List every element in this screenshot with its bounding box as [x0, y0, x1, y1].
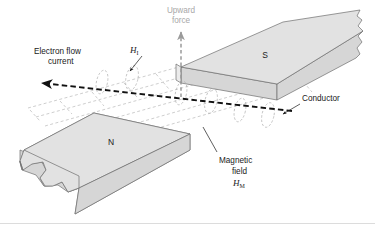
magnetic-force-diagram: N S — [0, 0, 375, 232]
conductor-leader — [283, 104, 300, 114]
current-field-symbol: HI — [129, 45, 139, 56]
magnetic-field-label-line2: field — [232, 167, 247, 176]
electron-flow-label-line2: current — [48, 57, 74, 66]
south-pole-label: S — [262, 50, 268, 60]
electron-flow-label-line1: Electron flow — [34, 47, 81, 56]
upward-force-label-line2: force — [172, 16, 191, 25]
magnetic-field-label-line1: Magnetic — [219, 156, 252, 165]
magnet-south-pole: S — [176, 10, 363, 100]
upward-force-label-line1: Upward — [167, 6, 196, 15]
conductor-label: Conductor — [302, 94, 340, 103]
upward-force-label-group: Upward force — [167, 6, 196, 25]
field-loop-5 — [232, 97, 248, 123]
magnetic-field-leader — [203, 127, 217, 152]
current-field-leader — [130, 56, 142, 71]
magnetic-field-label-group: Magnetic field HM — [203, 127, 252, 189]
field-loop-6 — [260, 102, 277, 129]
magnet-field-symbol: HM — [232, 178, 246, 189]
electron-flow-label-group: Electron flow current — [34, 47, 81, 66]
magnet-north-pole: N — [20, 113, 190, 214]
north-pole-label: N — [108, 137, 114, 147]
